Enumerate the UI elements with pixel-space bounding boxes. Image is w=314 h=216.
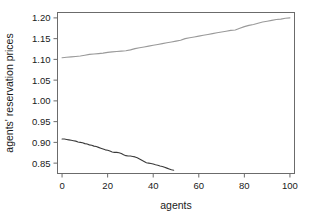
x-tick-label: 40: [148, 180, 159, 191]
y-tick-label: 1.15: [32, 33, 51, 44]
y-tick-label: 1.20: [32, 12, 51, 23]
y-tick-label: 0.90: [32, 137, 51, 148]
x-tick-label: 80: [239, 180, 250, 191]
x-tick-label: 20: [102, 180, 113, 191]
x-axis-title: agents: [160, 199, 192, 211]
reservation-prices-line-chart: 020406080100 0.850.900.951.001.051.101.1…: [0, 0, 314, 216]
y-tick-label: 1.00: [32, 95, 51, 106]
x-tick-label: 0: [59, 180, 64, 191]
x-tick-label: 100: [282, 180, 298, 191]
y-tick-label: 0.95: [32, 116, 51, 127]
chart-figure: 020406080100 0.850.900.951.001.051.101.1…: [0, 0, 314, 216]
y-axis-title: agents' reservation prices: [3, 33, 15, 152]
y-tick-label: 1.10: [32, 54, 51, 65]
y-tick-label: 0.85: [32, 158, 51, 169]
y-tick-label: 1.05: [32, 75, 51, 86]
x-tick-label: 60: [193, 180, 204, 191]
